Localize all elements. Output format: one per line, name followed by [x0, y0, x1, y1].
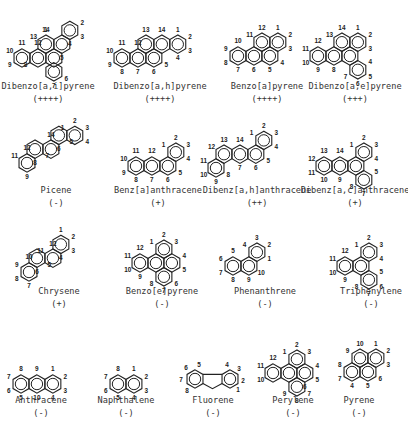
compound-name: Dibenz[a,c]anthracene: [301, 185, 408, 195]
atom-position-label: 5: [197, 361, 201, 368]
compound-name: Benzo[e]pyrene: [126, 286, 198, 296]
atom-position-label: 9: [316, 66, 320, 73]
atom-position-label: 13: [326, 31, 334, 38]
atom-position-label: 10: [257, 376, 265, 383]
aromatic-circle: [355, 260, 366, 271]
aromatic-circle: [328, 50, 339, 61]
aromatic-circle: [362, 366, 373, 377]
atom-position-label: 10: [234, 37, 242, 44]
atom-position-label: 7: [136, 68, 140, 75]
carcinogenic-activity: (-): [33, 408, 49, 418]
atom-position-label: 6: [7, 387, 11, 394]
compound-dibenzo-a-e-pyrene: 1234567891011121314Dibenzo[a,e]pyrene(++…: [302, 24, 401, 104]
atom-position-label: 11: [200, 157, 207, 164]
atom-position-label: 9: [224, 45, 228, 52]
atom-position-label: 2: [174, 134, 178, 141]
atom-position-label: 11: [124, 252, 131, 259]
compound-name: Picene: [40, 185, 71, 195]
aromatic-circle: [256, 36, 267, 47]
compound-triphenylene: 123456789101112Triphenylene(-): [329, 234, 402, 309]
atom-position-label: 9: [108, 61, 112, 68]
atom-position-label: 6: [379, 375, 383, 382]
atom-position-label: 7: [344, 73, 348, 80]
compound-name: Naphthalene: [98, 395, 155, 405]
atom-position-label: 14: [336, 147, 344, 154]
atom-position-label: 6: [254, 164, 258, 171]
compound-dibenz-a-c-anthracene: 123457891011121314Dibenz[a,c]anthracene(…: [301, 134, 408, 208]
compound-anthracene: 12341056789Anthracene(-): [7, 365, 67, 418]
aromatic-circle: [162, 160, 173, 171]
atom-position-label: 2: [71, 233, 75, 240]
compound-name: Anthracene: [15, 395, 67, 405]
carcinogenic-activity: (-): [118, 408, 134, 418]
atom-position-label: 1: [374, 340, 378, 347]
aromatic-circle: [334, 160, 345, 171]
atom-position-label: 2: [268, 241, 272, 248]
atom-position-label: 5: [380, 268, 384, 275]
compound-picene: 123456789111214Picene(-): [11, 117, 89, 208]
carcinogenic-activity: (++++): [251, 94, 282, 104]
atom-position-label: 8: [24, 61, 28, 68]
compound-dibenzo-a-h-pyrene: 1234567891011121314Dibenzo[a,h]pyrene(++…: [106, 26, 206, 104]
atom-position-label: 9: [122, 169, 126, 176]
carcinogenic-activity: (++++): [32, 94, 63, 104]
atom-position-label: 7: [46, 152, 50, 159]
pah-structure-diagram: 1234567891011121314Dibenzo[a,i]pyrene(++…: [0, 0, 408, 435]
aromatic-circle: [170, 146, 181, 157]
atom-position-label: 1: [61, 124, 65, 131]
atom-position-label: 2: [63, 373, 67, 380]
aromatic-circle: [248, 50, 259, 61]
atom-position-label: 8: [15, 275, 19, 282]
compound-name: Dibenzo[a,i]pyrene: [1, 81, 94, 91]
aromatic-circle: [227, 260, 238, 271]
atom-position-label: 11: [246, 31, 253, 38]
atom-position-label: 2: [295, 341, 299, 348]
atom-position-label: 8: [224, 59, 228, 66]
aromatic-circle: [346, 366, 357, 377]
carcinogenic-activity: (+): [51, 299, 67, 309]
atom-position-label: 2: [241, 377, 245, 384]
atom-position-label: 9: [8, 61, 12, 68]
atom-position-label: 5: [368, 73, 372, 80]
atom-position-label: 3: [374, 141, 378, 148]
atom-position-label: 9: [343, 276, 347, 283]
compound-benz-a-anthracene: 123456789101112Benz[a]anthracene(+): [114, 134, 202, 208]
atom-position-label: 2: [368, 31, 372, 38]
aromatic-circle: [344, 50, 355, 61]
aromatic-circle: [158, 271, 169, 282]
atom-position-label: 4: [368, 58, 372, 65]
compound-name: Phenanthrene: [234, 286, 296, 296]
atom-position-label: 13: [320, 147, 328, 154]
compound-name: Chrysene: [38, 286, 79, 296]
aromatic-circle: [243, 260, 254, 271]
atom-position-label: 3: [237, 365, 241, 372]
atom-position-label: 1: [150, 238, 154, 245]
aromatic-circle: [15, 378, 26, 389]
compound-name: Perylene: [272, 395, 313, 405]
atom-position-label: 4: [186, 155, 190, 162]
atom-position-label: 4: [280, 59, 284, 66]
atom-position-label: 13: [30, 33, 38, 40]
atom-position-label: 8: [185, 387, 189, 394]
aromatic-circle: [156, 38, 167, 49]
atom-position-label: 5: [315, 376, 319, 383]
carcinogenic-activity: (-): [205, 408, 221, 418]
atom-position-label: 7: [7, 373, 11, 380]
aromatic-circle: [31, 378, 42, 389]
aromatic-circle: [140, 38, 151, 49]
aromatic-circle: [336, 36, 347, 47]
atom-position-label: 12: [136, 244, 144, 251]
aromatic-circle: [299, 367, 310, 378]
atom-position-label: 12: [208, 143, 216, 150]
compound-pyrene: 12365478910Pyrene(-): [338, 340, 391, 418]
atom-position-label: 2: [262, 122, 266, 129]
compound-name: Benzo[a]pyrene: [231, 81, 303, 91]
atom-position-label: 10: [356, 340, 364, 347]
atom-position-label: 12: [49, 240, 57, 247]
compound-dibenzo-a-i-pyrene: 1234567891011121314Dibenzo[a,i]pyrene(++…: [1, 19, 94, 104]
atom-position-label: 8: [332, 66, 336, 73]
atom-position-label: 3: [308, 348, 312, 355]
atom-position-label: 6: [184, 364, 188, 371]
aromatic-circle: [64, 25, 75, 36]
aromatic-circle: [352, 64, 363, 75]
